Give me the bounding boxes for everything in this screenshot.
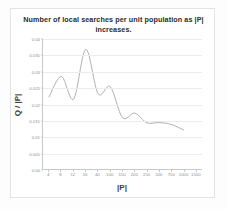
y-tick-label: 0.005 [29,151,40,156]
chart-figure: Number of local searches per unit popula… [10,8,215,198]
y-tick-mark [41,39,43,40]
y-tick-label: 0.01 [32,135,40,140]
x-tick-mark [171,170,172,172]
y-tick-mark [41,137,43,138]
x-axis-ticks: 4812164010015020025050075010001500 [42,172,202,181]
gridline [43,72,202,73]
x-tick-mark [48,170,49,172]
plot-area: 0.000.0050.010.0150.020.0250.030.0350.04 [42,39,202,170]
x-tick-mark [85,170,86,172]
x-tick-mark [60,170,61,172]
x-tick-mark [73,170,74,172]
gridline [43,137,202,138]
x-tick-mark [134,170,135,172]
x-tick-mark [122,170,123,172]
gridline [43,105,202,106]
x-tick-label: 200 [131,172,138,177]
x-tick-mark [184,170,185,172]
x-tick-mark [159,170,160,172]
x-tick-label: 40 [95,172,100,177]
gridline [43,39,202,40]
x-axis-title: |P| [42,183,202,192]
x-tick-mark [196,170,197,172]
y-tick-mark [41,120,43,121]
y-tick-mark [41,88,43,89]
y-axis-title: Q / |P| [13,94,22,117]
x-tick-label: 150 [118,172,125,177]
y-tick-label: 0.035 [29,53,40,58]
y-tick-label: 0.00 [32,168,40,173]
x-tick-label: 8 [59,172,61,177]
x-tick-label: 100 [106,172,113,177]
x-tick-label: 500 [155,172,162,177]
x-tick-label: 750 [168,172,175,177]
y-tick-label: 0.025 [29,86,40,91]
y-tick-label: 0.04 [32,37,40,42]
x-tick-label: 1000 [179,172,189,177]
y-tick-mark [41,55,43,56]
gridline [43,154,202,155]
y-tick-mark [41,153,43,154]
gridline [43,88,202,89]
chart-title: Number of local searches per unit popula… [19,15,208,36]
x-tick-mark [97,170,98,172]
x-tick-label: 16 [83,172,88,177]
x-tick-label: 4 [47,172,49,177]
x-tick-mark [110,170,111,172]
x-tick-label: 250 [143,172,150,177]
y-tick-mark [41,170,43,171]
y-tick-mark [41,104,43,105]
gridline [43,121,202,122]
y-tick-label: 0.03 [32,69,40,74]
y-tick-label: 0.02 [32,102,40,107]
gridline [43,55,202,56]
x-tick-label: 1500 [191,172,201,177]
y-tick-label: 0.015 [29,118,40,123]
x-tick-mark [147,170,148,172]
y-tick-mark [41,71,43,72]
x-tick-label: 12 [70,172,75,177]
